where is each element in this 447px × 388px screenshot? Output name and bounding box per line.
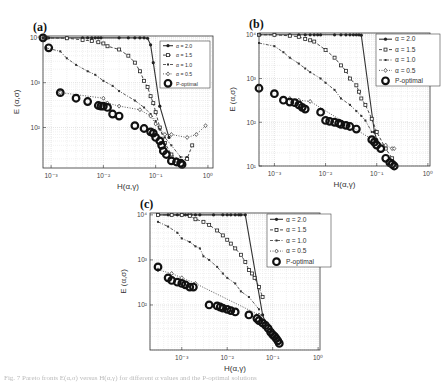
panel-label: (a) [33, 20, 47, 34]
chart-panel-c: 10⁻³10⁻²10⁻¹10⁰10²10³10⁴H(α,γ)E (α,σ)(c)… [119, 197, 331, 373]
panel-label: (b) [249, 17, 264, 31]
x-tick-label: 10⁰ [423, 170, 433, 177]
x-tick-label: 10⁻² [221, 354, 235, 361]
y-tick-label: 10⁴ [137, 211, 147, 218]
x-tick-label: 10⁰ [313, 354, 323, 361]
legend-entry: α = 1.0 [176, 62, 192, 68]
x-axis-label: H(α,γ) [224, 364, 246, 373]
x-tick-label: 10⁻² [97, 172, 111, 179]
legend-entry: P-optimal [286, 258, 314, 266]
legend-entry: α = 1.5 [395, 46, 416, 53]
legend-entry: P-optimal [395, 77, 423, 85]
x-tick-label: 10⁻³ [44, 172, 58, 179]
x-tick-label: 10⁻¹ [149, 172, 163, 179]
y-tick-label: 10⁴ [246, 31, 256, 38]
y-tick-label: 10³ [31, 79, 41, 86]
y-axis-label: E (α,σ) [119, 269, 128, 294]
y-tick-label: 10¹ [247, 163, 257, 170]
legend-entry: α = 1.0 [286, 237, 307, 244]
x-tick-label: 10⁻¹ [266, 354, 280, 361]
legend-entry: α = 0.5 [176, 71, 192, 77]
x-tick-label: 10⁰ [203, 172, 213, 179]
y-tick-label: 10² [247, 119, 257, 126]
legend-entry: α = 1.0 [395, 56, 416, 63]
y-tick-label: 10³ [247, 75, 257, 82]
legend-entry: α = 2.0 [395, 35, 416, 42]
legend: α = 2.0α = 1.5α = 1.0α = 0.5P-optimal [160, 41, 210, 88]
panel-label: (c) [140, 197, 153, 211]
y-axis-label: E (α,σ) [228, 87, 237, 112]
x-tick-label: 10⁻³ [268, 170, 282, 177]
figure-canvas: 10⁻³10⁻²10⁻¹10⁰10²10³10⁴H(α,γ)E (α,σ)(a)… [0, 0, 447, 388]
legend-entry: α = 2.0 [286, 216, 307, 223]
chart-panel-a: 10⁻³10⁻²10⁻¹10⁰10²10³10⁴H(α,γ)E (α,σ)(a)… [12, 20, 213, 191]
legend-entry: α = 1.5 [176, 52, 192, 58]
y-tick-label: 10² [138, 301, 148, 308]
figure-caption: Fig. 7 Pareto fronts E(α,σ) versus H(α,γ… [4, 374, 444, 382]
chart-panel-b: 10⁻³10⁻²10⁻¹10⁰10¹10²10³10⁴H(α,γ)E (α,σ)… [228, 17, 440, 189]
x-tick-label: 10⁻¹ [370, 170, 384, 177]
legend-entry: α = 1.5 [286, 226, 307, 233]
y-tick-label: 10³ [138, 256, 148, 263]
x-axis-label: H(α,γ) [117, 182, 139, 191]
x-axis-label: H(α,γ) [334, 180, 356, 189]
y-axis-label: E (α,σ) [12, 89, 21, 114]
legend-entry: α = 0.5 [395, 67, 416, 74]
y-tick-label: 10⁴ [30, 34, 40, 41]
legend: α = 2.0α = 1.5α = 1.0α = 0.5P-optimal [267, 214, 331, 267]
legend: α = 2.0α = 1.5α = 1.0α = 0.5P-optimal [376, 34, 440, 86]
x-tick-label: 10⁻² [319, 170, 333, 177]
legend-entry: P-optimal [176, 81, 198, 87]
x-tick-label: 10⁻³ [175, 354, 189, 361]
legend-entry: α = 2.0 [176, 43, 192, 49]
legend-entry: α = 0.5 [286, 247, 307, 254]
y-tick-label: 10² [31, 124, 41, 131]
